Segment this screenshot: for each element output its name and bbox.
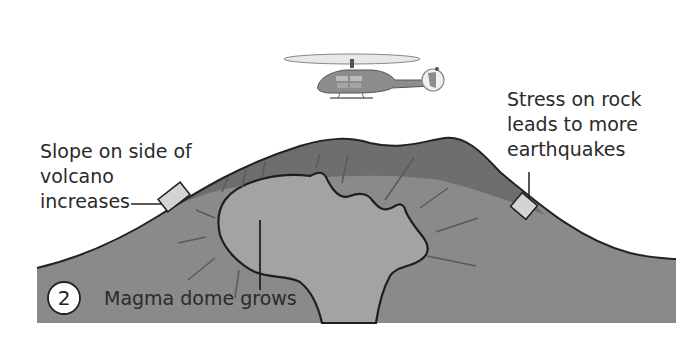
label-slope-line1: Slope on side of — [40, 140, 193, 162]
label-stress-line1: Stress on rock — [507, 88, 642, 110]
helicopter-icon — [284, 54, 444, 98]
label-slope-line2: volcano — [40, 165, 114, 187]
label-stress-line3: earthquakes — [507, 138, 625, 160]
label-stress-line2: leads to more — [507, 113, 638, 135]
label-magma-dome: Magma dome grows — [104, 287, 297, 309]
volcano-diagram: 2 Slope on side of volcano increases Str… — [0, 0, 697, 356]
helicopter-body — [318, 70, 432, 93]
step-number: 2 — [58, 286, 71, 310]
step-badge: 2 — [48, 282, 80, 314]
label-slope-line3: increases — [40, 190, 130, 212]
